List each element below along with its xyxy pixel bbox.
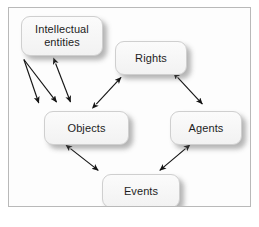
node-rights: Rights bbox=[115, 41, 187, 75]
node-agents: Agents bbox=[170, 111, 242, 145]
edge-fan-arrow-2 bbox=[24, 59, 57, 102]
node-objects: Objects bbox=[44, 111, 129, 145]
node-intellectual-entities-label: Intellectualentities bbox=[31, 23, 93, 49]
node-rights-label: Rights bbox=[131, 52, 171, 65]
edge-objects-events bbox=[70, 149, 98, 171]
node-objects-label: Objects bbox=[64, 122, 110, 135]
edge-intellectual-entities-objects bbox=[56, 63, 71, 102]
edge-rights-agents bbox=[178, 77, 203, 104]
diagram-canvas: Intellectualentities Rights Objects Agen… bbox=[8, 7, 251, 207]
node-events: Events bbox=[102, 174, 180, 207]
node-agents-label: Agents bbox=[185, 122, 228, 135]
node-intellectual-entities: Intellectualentities bbox=[21, 16, 103, 56]
edge-objects-rights bbox=[96, 77, 121, 104]
edge-fan-arrow-1 bbox=[24, 59, 39, 103]
figure-root: Intellectualentities Rights Objects Agen… bbox=[0, 0, 259, 227]
node-events-label: Events bbox=[120, 185, 162, 198]
edge-agents-events bbox=[160, 149, 186, 171]
